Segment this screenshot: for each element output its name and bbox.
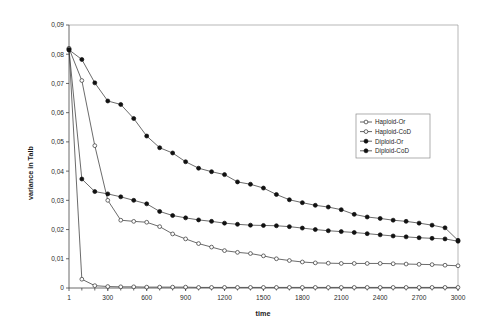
chart-container: 00,010,020,030,040,050,060,070,080,09 13… [0,0,480,325]
legend-open-circle-icon [364,120,368,124]
y-tick-label: 0,08 [51,51,64,58]
x-tick-label: 300 [102,294,113,301]
y-tick-label: 0,01 [51,255,64,262]
x-tick-label: 1200 [217,294,232,301]
y-tick-label: 0,03 [51,197,64,204]
x-tick-label: 3000 [451,294,466,301]
y-tick-label: 0,02 [51,226,64,233]
legend-filled-circle-icon [364,139,368,143]
legend-filled-circle-icon [364,149,368,153]
series-layer [67,46,460,289]
x-tick-label: 1800 [295,294,310,301]
chart-legend: Haploid-OrHaploid-CoDDiploid-OrDiploid-C… [356,114,430,158]
legend-label: Diploid-Or [375,138,403,146]
y-tick-label: 0,06 [51,109,64,116]
y-tick-label: 0,05 [51,138,64,145]
x-tick-label: 900 [180,294,191,301]
x-tick-label: 1500 [256,294,271,301]
x-axis-title: time [256,309,271,318]
y-tick-label: 0 [60,284,64,291]
legend-label: Haploid-Or [375,118,405,126]
legend-label: Haploid-CoD [375,128,411,136]
y-axis-ticks: 00,010,020,030,040,050,060,070,080,09 [51,21,69,291]
variance-vs-time-line-chart: 00,010,020,030,040,050,060,070,080,09 13… [0,0,480,325]
x-tick-label: 2400 [373,294,388,301]
x-tick-label: 600 [141,294,152,301]
legend-label: Diploid-CoD [375,147,409,155]
y-axis-title: variance in Talb [26,146,35,200]
y-tick-label: 0,09 [51,21,64,28]
x-tick-label: 2700 [412,294,427,301]
x-tick-label: 2100 [334,294,349,301]
x-axis-ticks: 13006009001200150018002100240027003000 [67,288,466,301]
x-tick-label: 1 [67,294,71,301]
series-haploid-or [67,46,460,289]
legend-open-circle-icon [364,130,368,134]
y-tick-label: 0,04 [51,168,64,175]
y-tick-label: 0,07 [51,80,64,87]
